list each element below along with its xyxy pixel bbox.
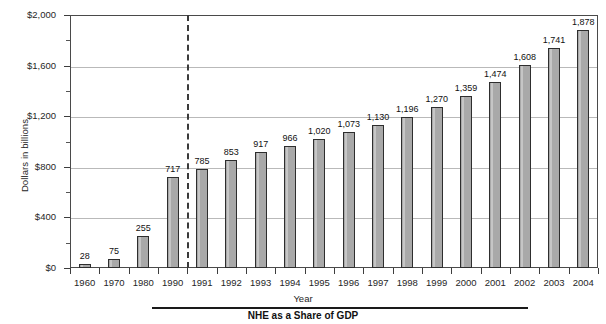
bar: [255, 152, 267, 268]
y-axis-tick-label: $2,000: [0, 9, 56, 20]
bar: [79, 264, 91, 268]
x-axis-tick: [598, 268, 599, 274]
y-axis-tick: [64, 217, 70, 218]
bar: [577, 30, 589, 268]
bar-series: 28752557177858539179661,0201,0731,1301,1…: [70, 15, 598, 268]
y-axis-tick-label: $0: [0, 262, 56, 273]
bar: [489, 82, 501, 268]
bar-value-label: 75: [90, 246, 138, 256]
y-axis-tick: [64, 116, 70, 117]
caption-divider: [152, 307, 528, 309]
y-axis-tick-label: $400: [0, 211, 56, 222]
bar-value-label: 785: [178, 156, 226, 166]
reference-divider-line: [187, 15, 189, 268]
x-axis-title: Year: [0, 293, 606, 304]
bar: [225, 160, 237, 268]
bar: [108, 259, 120, 268]
y-axis-tick: [64, 167, 70, 168]
x-axis-tick: [158, 268, 159, 274]
bar: [343, 132, 355, 268]
bar: [519, 65, 531, 268]
bar-value-label: 1,359: [442, 83, 490, 93]
bar: [372, 125, 384, 268]
x-axis-tick: [275, 268, 276, 274]
bar: [137, 236, 149, 268]
bar-value-label: 1,196: [383, 104, 431, 114]
y-axis-title: Dollars in billions: [19, 86, 30, 226]
x-axis-tick: [569, 268, 570, 274]
x-axis-tick: [539, 268, 540, 274]
y-axis-tick-label: $1,200: [0, 110, 56, 121]
bar-value-label: 1,741: [530, 35, 578, 45]
bar: [284, 146, 296, 268]
bar-value-label: 1,608: [501, 52, 549, 62]
bar-value-label: 1,474: [471, 69, 519, 79]
y-axis-minor-tick: [66, 40, 70, 41]
bar-value-label: 255: [119, 223, 167, 233]
bar: [196, 169, 208, 268]
bar: [431, 107, 443, 268]
x-axis-tick: [451, 268, 452, 274]
x-axis-tick: [246, 268, 247, 274]
bar: [401, 117, 413, 268]
x-axis-tick: [510, 268, 511, 274]
x-axis-tick: [393, 268, 394, 274]
x-axis-tick: [217, 268, 218, 274]
chart-figure: Dollars in billions 28752557177858539179…: [0, 0, 606, 324]
x-axis-tick: [129, 268, 130, 274]
figure-caption: NHE as a Share of GDP: [0, 310, 606, 321]
y-axis-minor-tick: [66, 142, 70, 143]
bar: [460, 96, 472, 268]
bar: [548, 48, 560, 268]
x-axis-tick: [334, 268, 335, 274]
y-axis-tick: [64, 15, 70, 16]
x-axis-tick: [363, 268, 364, 274]
x-axis-tick: [70, 268, 71, 274]
bar-value-label: 717: [149, 164, 197, 174]
y-axis-minor-tick: [66, 91, 70, 92]
bar-value-label: 1,878: [559, 17, 606, 27]
x-axis-tick: [422, 268, 423, 274]
x-axis-tick: [481, 268, 482, 274]
y-axis-tick-label: $800: [0, 161, 56, 172]
bar: [313, 139, 325, 268]
y-axis-minor-tick: [66, 192, 70, 193]
y-axis-tick-label: $1,600: [0, 60, 56, 71]
x-axis-tick: [305, 268, 306, 274]
bar-value-label: 1,270: [413, 94, 461, 104]
x-axis-tick: [99, 268, 100, 274]
y-axis-minor-tick: [66, 243, 70, 244]
bar: [167, 177, 179, 268]
y-axis-tick: [64, 66, 70, 67]
x-axis-tick: [187, 268, 188, 274]
x-axis-tick-label: 2004: [563, 277, 603, 288]
